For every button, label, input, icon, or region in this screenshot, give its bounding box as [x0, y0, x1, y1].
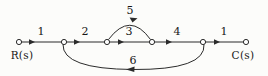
gain-label-branch-3: 3 — [126, 26, 133, 37]
arrowhead-branch-3 — [118, 39, 124, 45]
arrowhead-branch-4 — [166, 39, 172, 45]
node-output-Cs — [243, 39, 248, 44]
arrowhead-branch-5 — [214, 39, 220, 45]
node-input-Rs — [16, 39, 21, 44]
arrowhead-branch-2 — [74, 39, 80, 45]
gain-label-branch-1: 1 — [38, 26, 45, 37]
input-node-label: R(s) — [11, 50, 34, 61]
arrowhead-branch-6 — [130, 18, 138, 23]
gain-label-branch-5: 1 — [221, 26, 228, 37]
signal-flow-graph-figure: 1 2 3 4 1 5 6 R(s) C(s) — [0, 0, 268, 76]
gain-label-branch-2: 2 — [82, 26, 89, 37]
gain-label-branch-4: 4 — [174, 26, 181, 37]
gain-label-branch-6: 5 — [127, 5, 134, 16]
arrowhead-branch-1 — [29, 39, 35, 45]
node-2 — [61, 39, 66, 44]
node-4 — [149, 39, 154, 44]
gain-label-branch-7: 6 — [130, 55, 137, 66]
output-node-label: C(s) — [232, 50, 255, 61]
node-3 — [104, 39, 109, 44]
node-5 — [200, 39, 205, 44]
arrowhead-branch-7 — [126, 67, 135, 72]
